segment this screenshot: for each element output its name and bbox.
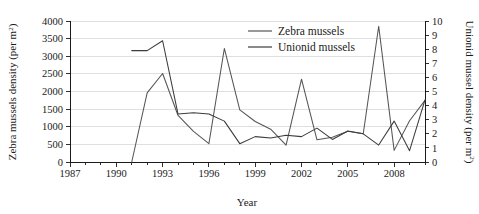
legend-label-unionid-mussels: Unionid mussels [278, 41, 356, 53]
x-axis-title: Year [237, 196, 258, 208]
y-right-axis-title-text: Unionid mussel density (per m [463, 21, 476, 157]
x-axis-tick-label: 1990 [106, 168, 127, 179]
x-axis-tick-label: 2005 [337, 168, 358, 179]
y-left-axis-tick-label: 0 [58, 157, 63, 168]
y-right-axis-title-close: ) [463, 160, 476, 164]
x-axis-tick-label: 1987 [60, 168, 81, 179]
dual-axis-line-chart: 19871990199319961999200220052008 0500100… [0, 0, 479, 214]
y-left-axis-title-close: ) [6, 23, 19, 27]
y-left-axis-tick-label: 4000 [42, 16, 63, 27]
y-right-axis-tick-label: 4 [432, 100, 438, 111]
x-axis-tick-label: 2002 [291, 168, 312, 179]
y-right-axis-tick-label: 9 [432, 30, 437, 41]
x-axis-tick-label: 1999 [245, 168, 266, 179]
y-left-axis-tick-label: 500 [47, 139, 63, 150]
y-left-axis-tick-label: 1500 [42, 104, 63, 115]
svg-text:Unionid mussel density (per m2: Unionid mussel density (per m2) [463, 21, 476, 164]
y-right-axis-tick-label: 0 [432, 157, 437, 168]
y-left-axis-title: Zebra mussels density (per m2) [6, 23, 19, 160]
chart-figure: 19871990199319961999200220052008 0500100… [0, 0, 479, 214]
svg-text:Zebra mussels density (per m2): Zebra mussels density (per m2) [6, 23, 19, 160]
y-left-axis-tick-label: 2500 [42, 68, 63, 79]
y-right-axis-title: Unionid mussel density (per m2) [463, 21, 476, 164]
y-right-axis-tick-label: 8 [432, 44, 437, 55]
y-left-axis-title-text: Zebra mussels density (per m [6, 30, 19, 160]
y-left-axis-tick-label: 3500 [42, 33, 63, 44]
x-axis-tick-label: 1996 [198, 168, 219, 179]
x-axis-tick-label: 1993 [152, 168, 173, 179]
y-left-axis-tick-label: 3000 [42, 51, 63, 62]
y-right-axis-tick-label: 5 [432, 86, 437, 97]
x-axis-tick-label: 2008 [384, 168, 405, 179]
legend-label-zebra-mussels: Zebra mussels [278, 25, 345, 37]
y-right-axis-tick-label: 7 [432, 58, 437, 69]
y-right-axis-tick-label: 3 [432, 114, 437, 125]
y-left-axis-tick-label: 1000 [42, 121, 63, 132]
y-right-axis-tick-label: 6 [432, 72, 437, 83]
y-right-axis-tick-label: 2 [432, 128, 437, 139]
y-right-axis-tick-label: 10 [432, 16, 443, 27]
y-left-axis-tick-label: 2000 [42, 86, 63, 97]
y-right-axis-tick-label: 1 [432, 143, 437, 154]
